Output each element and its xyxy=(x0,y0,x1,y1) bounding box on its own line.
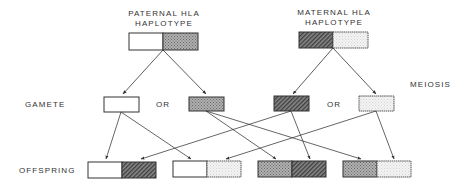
offspring-label: OFFSPRING xyxy=(19,166,76,175)
gamete-maternal-hatch xyxy=(274,96,309,111)
offspring-3 xyxy=(258,161,326,177)
maternal-haplotype xyxy=(299,32,368,48)
gamete-label: GAMETE xyxy=(25,100,65,109)
fertilization-arrows xyxy=(106,111,394,159)
paternal-label-line1: PATERNAL HLA xyxy=(118,9,210,19)
gamete-paternal-white xyxy=(104,97,139,112)
maternal-label-line1: MATERNAL HLA xyxy=(288,8,380,18)
gamete-row xyxy=(104,96,394,112)
offspring-1 xyxy=(88,162,156,178)
gamete-paternal-crosshatch xyxy=(189,97,224,111)
hla-inheritance-diagram xyxy=(0,0,469,190)
gamete-maternal-light xyxy=(359,96,394,111)
paternal-haplotype xyxy=(129,33,198,50)
offspring-row xyxy=(88,161,411,178)
maternal-label: MATERNAL HLA HAPLOTYPE xyxy=(288,8,380,28)
maternal-label-line2: HAPLOTYPE xyxy=(288,18,380,28)
paternal-label-line2: HAPLOTYPE xyxy=(118,19,210,29)
or-label-maternal: OR xyxy=(327,100,341,109)
offspring-4 xyxy=(343,161,411,177)
meiosis-label: MEIOSIS xyxy=(410,80,451,89)
paternal-label: PATERNAL HLA HAPLOTYPE xyxy=(118,9,210,29)
or-label-paternal: OR xyxy=(156,100,170,109)
offspring-2 xyxy=(173,161,241,177)
meiosis-arrows xyxy=(123,48,376,94)
